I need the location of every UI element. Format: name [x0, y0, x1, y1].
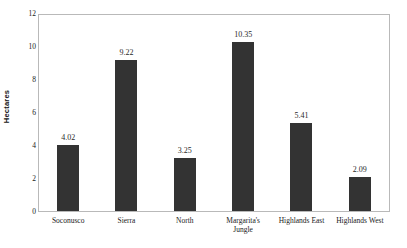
bar[interactable]	[57, 145, 79, 211]
bar-group: 10.35	[214, 15, 272, 211]
x-axis-tick-label-line: Margarita's	[226, 216, 260, 225]
y-axis-tick-label: 8	[16, 76, 36, 84]
bar-group: 5.41	[272, 15, 330, 211]
bar[interactable]	[115, 60, 137, 211]
bar-value-label: 4.02	[61, 134, 75, 142]
bar-group: 3.25	[156, 15, 214, 211]
y-axis-title-label: Hectares	[3, 89, 12, 122]
x-axis-tick-label-line: Highlands East	[279, 216, 325, 225]
bar[interactable]	[290, 123, 312, 211]
bar-value-label: 3.25	[178, 147, 192, 155]
x-axis-tick-label: Highlands West	[328, 216, 392, 225]
bar-group: 4.02	[39, 15, 97, 211]
bars-layer: 4.029.223.2510.355.412.09	[39, 15, 389, 211]
x-axis-tick-label-line: Highlands West	[336, 216, 383, 225]
bar[interactable]	[349, 177, 371, 211]
bar-value-label: 2.09	[353, 166, 367, 174]
bar-value-label: 5.41	[294, 112, 308, 120]
bar-value-label: 9.22	[119, 49, 133, 57]
y-axis-tick-label: 2	[16, 175, 36, 183]
y-axis-title: Hectares	[0, 0, 14, 212]
x-axis-tick-label: Soconusco	[36, 216, 100, 225]
x-axis-tick-label: Margarita'sJungle	[211, 216, 275, 235]
x-axis-tick-labels: SoconuscoSierraNorthMargarita'sJungleHig…	[39, 216, 389, 246]
y-axis-tick-labels: 024681012	[16, 14, 36, 212]
x-axis-tick-label: Sierra	[95, 216, 159, 225]
x-axis-tick-label: Highlands East	[270, 216, 334, 225]
y-axis-tick-label: 0	[16, 208, 36, 216]
bar-group: 2.09	[331, 15, 389, 211]
y-axis-tick-label: 4	[16, 142, 36, 150]
y-axis-tick-label: 12	[16, 10, 36, 18]
bar[interactable]	[232, 42, 254, 211]
x-axis-tick-label: North	[153, 216, 217, 225]
x-axis-tick-label-line: Sierra	[118, 216, 136, 225]
bar-chart: Hectares 024681012 4.029.223.2510.355.41…	[0, 0, 407, 248]
y-axis-tick-label: 10	[16, 43, 36, 51]
y-axis-tick-label: 6	[16, 109, 36, 117]
bar[interactable]	[174, 158, 196, 211]
x-axis-tick-label-line: Soconusco	[52, 216, 85, 225]
bar-value-label: 10.35	[234, 31, 252, 39]
x-axis-tick-label-line: Jungle	[211, 225, 275, 234]
bar-group: 9.22	[97, 15, 155, 211]
x-axis-tick-label-line: North	[176, 216, 194, 225]
